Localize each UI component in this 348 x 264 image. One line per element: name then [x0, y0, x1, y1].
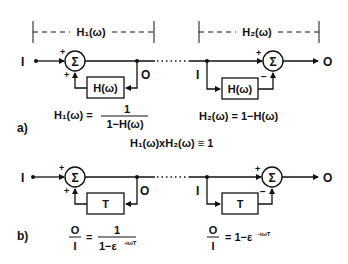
sign-top-a2: +: [256, 48, 261, 58]
eq-h1-den: 1−H(ω): [106, 118, 143, 130]
eq-b2-lhs-den: I: [211, 240, 214, 252]
input-label-a2: I: [196, 68, 199, 82]
eq-h1-num: 1: [124, 103, 130, 115]
product-equation: H₁(ω)xH₂(ω) ≡ 1: [130, 137, 213, 149]
sigma-a1: Σ: [71, 55, 78, 69]
eq-b2-lhs-num: O: [209, 224, 218, 236]
block-t-b2-label: T: [237, 198, 244, 210]
eq-b1-equals: =: [86, 231, 92, 243]
sigma-b2: Σ: [268, 171, 275, 185]
sign-top-a1: +: [60, 47, 65, 57]
eq-b2-rhs-base: = 1−ε: [225, 231, 253, 243]
panel-a-label: a): [17, 121, 28, 135]
sign-bottom-a1: +: [64, 70, 69, 80]
feedback-diagram: H₁(ω) H₂(ω) I Σ + + H(ω) O I H(ω): [0, 0, 348, 264]
sigma-a2: Σ: [269, 55, 276, 69]
sign-bottom-b1: +: [64, 186, 69, 196]
sign-bottom-b2: −: [260, 186, 266, 197]
eq-h1-lhs: H₁(ω) =: [54, 109, 93, 121]
panel-b: I Σ + + T O I T Σ + − O b) O I = 1: [17, 163, 332, 252]
output-label-b1: O: [140, 184, 149, 198]
bracket-h1-label: H₁(ω): [76, 26, 105, 38]
output-label-b2: O: [323, 171, 332, 185]
sign-top-b2: +: [255, 164, 260, 174]
input-label-b1: I: [21, 171, 24, 185]
eq-b1-lhs-num: O: [71, 224, 80, 236]
eq-b1-den-exp: -iωT: [124, 240, 137, 246]
eq-b1-num: 1: [114, 224, 120, 236]
panel-a: H₁(ω) H₂(ω) I Σ + + H(ω) O I H(ω): [17, 21, 332, 149]
input-label-b2: I: [196, 184, 199, 198]
input-label-a1: I: [21, 55, 24, 69]
block-h-a2-label: H(ω): [228, 83, 253, 95]
block-t-b1-label: T: [102, 198, 109, 210]
eq-b2-rhs-exp: -iωT: [258, 231, 271, 237]
sign-bottom-a2: −: [261, 71, 267, 82]
output-label-a2: O: [323, 55, 332, 69]
sigma-b1: Σ: [71, 171, 78, 185]
output-label-a1: O: [141, 68, 150, 82]
panel-b-label: b): [17, 229, 28, 243]
eq-b1-lhs-den: I: [73, 240, 76, 252]
bracket-h2-label: H₂(ω): [242, 26, 272, 38]
block-h-a1-label: H(ω): [93, 82, 118, 94]
eq-h2: H₂(ω) = 1−H(ω): [199, 110, 278, 122]
eq-b1-den-base: 1−ε: [99, 240, 118, 252]
sign-top-b1: +: [59, 163, 64, 173]
